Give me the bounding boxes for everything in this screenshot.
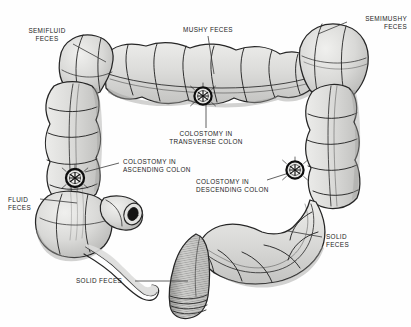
colostomy-diagram: SEMIFLUID FECES MUSHY FECES SEMIMUSHY FE… bbox=[0, 0, 411, 327]
stoma-descending-colon bbox=[283, 157, 308, 180]
label-solid-feces-bottom-line1: SOLID FECES bbox=[76, 277, 146, 285]
label-colostomy-descending-line1: COLOSTOMY IN bbox=[196, 178, 306, 186]
label-solid-feces-right-line2: FECES bbox=[326, 241, 370, 249]
label-semifluid-feces-line2: FECES bbox=[14, 35, 80, 43]
label-colostomy-ascending-line2: ASCENDING COLON bbox=[123, 166, 227, 174]
label-semifluid-feces-line1: SEMIFLUID bbox=[14, 27, 80, 35]
label-semimushy-feces-line1: SEMIMUSHY bbox=[279, 15, 407, 23]
label-solid-feces-bottom: SOLID FECES bbox=[76, 277, 146, 285]
label-colostomy-transverse-line1: COLOSTOMY IN bbox=[157, 130, 255, 138]
label-mushy-feces-line1: MUSHY FECES bbox=[172, 26, 244, 34]
label-colostomy-descending-line2: DESCENDING COLON bbox=[196, 186, 306, 194]
descending-colon-segment bbox=[306, 85, 361, 209]
label-colostomy-ascending-colon: COLOSTOMY IN ASCENDING COLON bbox=[123, 158, 227, 175]
label-solid-feces-right: SOLID FECES bbox=[326, 233, 370, 250]
label-fluid-feces-line1: FLUID bbox=[8, 196, 48, 204]
label-semifluid-feces: SEMIFLUID FECES bbox=[14, 27, 80, 44]
label-colostomy-descending-colon: COLOSTOMY IN DESCENDING COLON bbox=[196, 178, 306, 195]
label-colostomy-transverse-line2: TRANSVERSE COLON bbox=[157, 138, 255, 146]
label-colostomy-ascending-line1: COLOSTOMY IN bbox=[123, 158, 227, 166]
label-mushy-feces: MUSHY FECES bbox=[172, 26, 244, 34]
label-fluid-feces: FLUID FECES bbox=[8, 196, 48, 213]
sigmoid-colon-segment bbox=[198, 200, 325, 288]
rectum-segment bbox=[169, 234, 209, 319]
appendix bbox=[84, 244, 159, 300]
label-fluid-feces-line2: FECES bbox=[8, 204, 48, 212]
label-colostomy-transverse-colon: COLOSTOMY IN TRANSVERSE COLON bbox=[157, 130, 255, 147]
label-solid-feces-right-line1: SOLID bbox=[326, 233, 370, 241]
label-semimushy-feces-line2: FECES bbox=[279, 23, 407, 31]
label-semimushy-feces: SEMIMUSHY FECES bbox=[279, 15, 407, 32]
